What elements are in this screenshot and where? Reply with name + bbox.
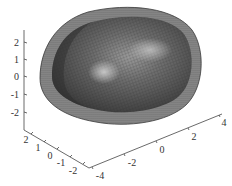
capsule-surface [40,7,201,124]
z-tick-label: 2 [14,37,19,48]
z-tick-label: 0 [14,71,19,82]
y-tick-label: -2 [69,165,77,176]
z-tick-label: -2 [11,107,19,118]
y-tick-label: 2 [24,134,29,145]
x-tick-label: 2 [192,131,197,142]
z-tick-label: -1 [11,89,19,100]
z-axis: 2 1 0 -1 -2 [11,30,27,130]
x-tick-label: 0 [160,144,165,155]
y-tick-label: 1 [36,142,41,153]
x-tick-label: -2 [128,157,136,168]
z-tick-label: 1 [14,54,19,65]
y-axis: 2 1 0 -1 -2 [24,130,90,176]
x-tick-label: -4 [96,170,104,181]
y-tick-label: -1 [57,157,65,168]
y-tick-label: 0 [48,150,53,161]
capsule-3d-plot: 2 1 0 -1 -2 2 1 0 -1 -2 -4 -2 0 [0,0,232,186]
x-tick-label: 4 [222,117,227,128]
